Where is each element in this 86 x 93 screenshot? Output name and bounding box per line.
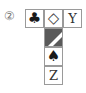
figure-label: ②: [2, 9, 16, 23]
diamond-outline-icon: ◇: [48, 11, 60, 26]
cell-y: Y: [63, 9, 82, 28]
cell-diamond: ◇: [44, 9, 63, 28]
club-icon: ♣: [28, 11, 41, 26]
letter-z: Z: [49, 69, 58, 82]
cell-diagonal-shaded: [44, 28, 63, 47]
spade-icon: ♠: [47, 49, 60, 64]
diagonal-stripe-icon: [45, 29, 62, 46]
cell-z: Z: [44, 66, 63, 85]
letter-y: Y: [68, 12, 77, 25]
cell-spade: ♠: [44, 47, 63, 66]
cell-club: ♣: [25, 9, 44, 28]
